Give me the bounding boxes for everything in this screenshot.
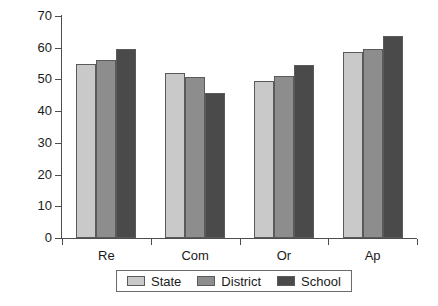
y-axis-tick-label: 60 [4, 41, 52, 54]
y-axis-label-slot: 0 [0, 231, 52, 244]
legend-entry-state: State [127, 275, 181, 288]
x-axis-tick [417, 239, 418, 245]
x-axis-tick-label: Ap [328, 248, 417, 263]
y-axis-tick [55, 175, 61, 176]
y-axis-tick [55, 143, 61, 144]
legend-swatch-icon [197, 276, 215, 286]
y-axis-tick [55, 206, 61, 207]
y-axis-label-slot: 20 [0, 168, 52, 181]
y-axis-label-slot: 40 [0, 104, 52, 117]
legend-label: State [151, 275, 181, 288]
y-axis-tick [55, 79, 61, 80]
bar-district-or [274, 76, 294, 238]
bar-state-or [254, 81, 274, 238]
bar-state-ap [343, 52, 363, 238]
y-axis-label-slot: 50 [0, 72, 52, 85]
y-axis-tick-label: 30 [4, 136, 52, 149]
bar-district-re [96, 60, 116, 238]
legend-entry-school: School [277, 275, 341, 288]
chart-legend: StateDistrictSchool [116, 270, 352, 292]
x-axis-tick [240, 239, 241, 245]
y-axis-label-slot: 60 [0, 41, 52, 54]
y-axis-tick-label: 0 [4, 231, 52, 244]
x-axis-tick-label: Or [240, 248, 329, 263]
bar-school-ap [383, 36, 403, 238]
bar-chart: 010203040506070 ReComOrAp StateDistrictS… [0, 0, 438, 306]
legend-swatch-icon [127, 276, 145, 286]
x-axis-tick [151, 239, 152, 245]
bar-district-com [185, 77, 205, 238]
y-axis-tick-label: 40 [4, 104, 52, 117]
y-axis-tick-label: 70 [4, 9, 52, 22]
legend-label: District [221, 275, 261, 288]
bar-district-ap [363, 49, 383, 238]
bar-state-com [165, 73, 185, 238]
y-axis-tick [55, 48, 61, 49]
legend-swatch-icon [277, 276, 295, 286]
y-axis-tick-label: 50 [4, 72, 52, 85]
legend-label: School [301, 275, 341, 288]
y-axis-label-slot: 70 [0, 9, 52, 22]
bar-state-re [76, 64, 96, 238]
x-axis-tick [62, 239, 63, 245]
x-axis-tick-label: Com [151, 248, 240, 263]
bar-school-com [205, 93, 225, 238]
y-axis-label-slot: 10 [0, 199, 52, 212]
legend-entry-district: District [197, 275, 261, 288]
x-axis-tick [328, 239, 329, 245]
x-axis-tick-label: Re [62, 248, 151, 263]
y-axis-label-slot: 30 [0, 136, 52, 149]
y-axis-tick [55, 111, 61, 112]
bar-school-or [294, 65, 314, 238]
plot-area [62, 16, 417, 238]
y-axis-tick [55, 238, 61, 239]
y-axis-tick [55, 16, 61, 17]
bar-school-re [116, 49, 136, 238]
y-axis-tick-label: 20 [4, 168, 52, 181]
y-axis-tick-label: 10 [4, 199, 52, 212]
